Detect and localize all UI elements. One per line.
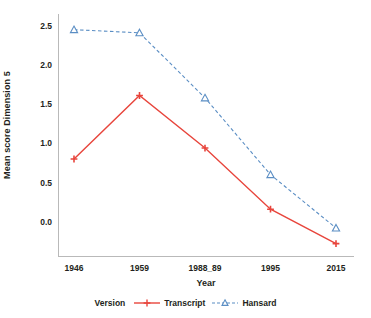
series-hansard [70, 26, 339, 231]
data-point-marker [201, 94, 208, 101]
line-chart: Mean score Dimension 5 2.52.01.51.00.50.… [0, 0, 371, 318]
series-plot [58, 14, 354, 257]
y-tick-label: 2.0 [40, 60, 52, 70]
y-tick-label: 2.5 [40, 21, 52, 31]
y-tick-label: 0.5 [40, 178, 52, 188]
y-tick-label: 1.0 [40, 138, 52, 148]
x-tick-label: 1946 [65, 263, 84, 273]
legend-swatch-hansard [212, 298, 238, 308]
x-tick-label: 1995 [261, 263, 280, 273]
x-tick-label: 2015 [327, 263, 346, 273]
y-tick-label: 1.5 [40, 99, 52, 109]
series-line [74, 96, 336, 244]
x-tick-label: 1959 [130, 263, 149, 273]
legend-entry-hansard[interactable]: Hansard [212, 298, 276, 308]
legend-swatch-transcript [134, 298, 160, 308]
y-axis-title: Mean score Dimension 5 [2, 0, 12, 50]
data-point-marker [332, 224, 339, 231]
x-axis-title: Year [58, 278, 354, 288]
data-point-marker [333, 240, 340, 247]
legend-label-transcript: Transcript [164, 298, 205, 308]
legend-title: Version [95, 298, 126, 308]
series-line [74, 30, 336, 228]
x-tick-label: 1988_89 [188, 263, 221, 273]
legend-entry-transcript[interactable]: Transcript [134, 298, 205, 308]
legend-label-hansard: Hansard [242, 298, 276, 308]
y-tick-label: 0.0 [40, 217, 52, 227]
plot-area: 2.52.01.51.00.50.0 194619591988_89199520… [58, 14, 354, 257]
y-axis-title-label: Mean score Dimension 5 [2, 50, 12, 200]
series-transcript [71, 92, 340, 247]
chart-legend: Version Transcript Hansard [0, 298, 371, 308]
